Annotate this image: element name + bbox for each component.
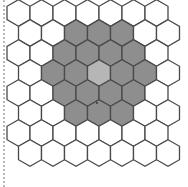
markers xyxy=(96,102,98,104)
hex-cell-empty xyxy=(134,140,157,167)
hex-cell-empty xyxy=(19,140,42,167)
hex-cell-empty xyxy=(88,140,111,167)
hex-cell-empty xyxy=(65,140,88,167)
hex-cell-empty xyxy=(42,140,65,167)
dot-marker xyxy=(96,102,98,104)
hex-cell-empty xyxy=(111,140,134,167)
hex-cells xyxy=(7,0,180,166)
hex-grid-diagram xyxy=(0,0,188,187)
hex-cell-empty xyxy=(157,140,180,167)
